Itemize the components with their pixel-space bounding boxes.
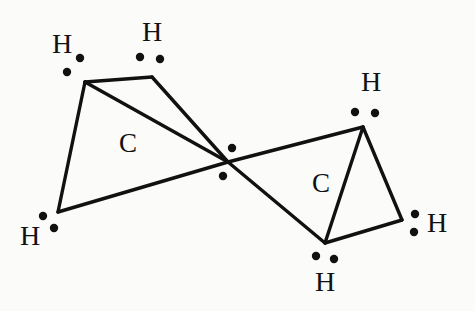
bond-group xyxy=(58,77,402,243)
dot-topleft-a xyxy=(76,54,84,62)
hydrogen-bottom-middle: H xyxy=(315,266,335,297)
hydrogen-top-right: H xyxy=(361,66,381,97)
molecule-diagram: CCHHHHHH xyxy=(0,0,475,311)
dot-right-a xyxy=(411,210,419,218)
dot-right-b xyxy=(410,228,418,236)
dot-topright-a xyxy=(351,108,359,116)
bond-topleft-topmiddle xyxy=(85,77,152,82)
dot-bottommiddle-b xyxy=(330,255,338,263)
bond-topleft-bottomleft xyxy=(58,82,85,212)
hydrogen-right: H xyxy=(427,207,447,238)
bond-bottomleft-center xyxy=(58,162,228,212)
bond-center-topright xyxy=(228,127,363,162)
dot-topmiddle-a xyxy=(136,53,144,61)
bond-topright-right xyxy=(363,127,402,220)
hydrogen-bottom-left: H xyxy=(20,220,40,251)
dot-bottomleft-b xyxy=(50,224,58,232)
molecule-canvas: CCHHHHHH xyxy=(0,0,475,311)
carbon-left: C xyxy=(119,128,137,158)
bond-center-bottommiddle xyxy=(228,162,325,243)
bond-right-bottommiddle xyxy=(325,220,402,243)
bond-topmiddle-center xyxy=(152,77,228,162)
dot-topright-b xyxy=(371,109,379,117)
dot-bottommiddle-a xyxy=(312,252,320,260)
dot-center-lower xyxy=(219,172,227,180)
dot-bottomleft-a xyxy=(39,212,47,220)
dot-topleft-b xyxy=(63,68,71,76)
dot-center-upper xyxy=(228,144,236,152)
bond-topright-bottommiddle xyxy=(325,127,363,243)
hydrogen-top-middle: H xyxy=(142,16,162,47)
hydrogen-top-left: H xyxy=(52,28,72,59)
dot-topmiddle-b xyxy=(156,55,164,63)
carbon-right: C xyxy=(312,168,330,198)
bond-topleft-center xyxy=(85,82,228,162)
